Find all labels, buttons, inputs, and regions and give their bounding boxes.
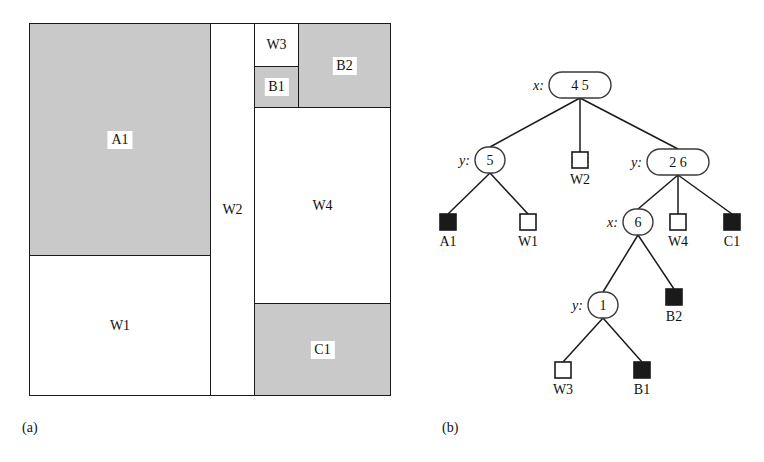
tree-leaf-node-w3[interactable]: W3	[553, 362, 573, 397]
tree-node-axis-label: y:	[457, 153, 470, 168]
tree-leaf-label: B1	[634, 382, 650, 397]
tree-leaf-label: W3	[553, 382, 573, 397]
floorplan-block-w2[interactable]: W2	[210, 23, 255, 396]
tree-internal-node-n-y5[interactable]: y:5	[457, 147, 505, 173]
tree-edge	[490, 173, 528, 214]
filled-square-icon	[724, 214, 740, 230]
tree-edge	[448, 173, 490, 214]
open-square-icon	[520, 214, 536, 230]
floorplan-block-w4[interactable]: W4	[254, 107, 391, 304]
tree-leaf-node-w1[interactable]: W1	[518, 214, 538, 249]
tree-node-value: 2 6	[669, 155, 687, 170]
floorplan-block-w3[interactable]: W3	[254, 23, 299, 67]
tree-leaf-label: W2	[570, 172, 590, 187]
tree-edge	[638, 175, 678, 209]
tree-node-axis-label: x:	[606, 215, 618, 230]
tree-edge	[678, 175, 732, 214]
tree-leaf-label: A1	[439, 234, 456, 249]
panel-b-caption: (b)	[442, 420, 458, 436]
tree-leaf-node-a1[interactable]: A1	[439, 214, 456, 249]
tree-leaf-node-w2[interactable]: W2	[570, 152, 590, 187]
open-square-icon	[670, 214, 686, 230]
floorplan-block-label: W4	[312, 199, 332, 213]
floorplan-block-b2[interactable]: B2	[298, 23, 391, 108]
tree-node-axis-label: y:	[570, 298, 583, 313]
tree-leaf-label: W1	[518, 234, 538, 249]
tree-edge	[580, 98, 678, 149]
tree-node-group: x:4 5y:5y:2 6x:6y:1A1W1W2W4C1B2W3B1	[439, 72, 740, 397]
floorplan-block-label: B1	[264, 78, 288, 96]
open-square-icon	[555, 362, 571, 378]
panel-slicing-tree: x:4 5y:5y:2 6x:6y:1A1W1W2W4C1B2W3B1 (b)	[420, 0, 764, 462]
tree-edge	[490, 98, 580, 147]
floorplan-block-w1[interactable]: W1	[29, 255, 211, 396]
tree-node-value: 4 5	[571, 78, 589, 93]
tree-leaf-label: B2	[666, 309, 682, 324]
tree-leaf-node-b1[interactable]: B1	[634, 362, 650, 397]
open-square-icon	[572, 152, 588, 168]
tree-leaf-label: C1	[724, 234, 740, 249]
tree-edge-group	[448, 98, 732, 362]
figure-root: A1W1W2W3B1B2W4C1 (a) x:4 5y:5y:2 6x:6y:1…	[0, 0, 764, 462]
floorplan-block-label: C1	[310, 341, 334, 359]
panel-floorplan: A1W1W2W3B1B2W4C1 (a)	[0, 0, 420, 462]
tree-node-value: 6	[635, 215, 642, 230]
tree-leaf-node-w4[interactable]: W4	[668, 214, 688, 249]
tree-internal-node-root[interactable]: x:4 5	[532, 72, 611, 98]
floorplan-block-label: B2	[332, 57, 356, 75]
filled-square-icon	[440, 214, 456, 230]
tree-edge	[563, 318, 603, 362]
filled-square-icon	[666, 289, 682, 305]
floorplan-block-b1[interactable]: B1	[254, 66, 299, 108]
tree-edge	[603, 235, 638, 292]
tree-leaf-node-c1[interactable]: C1	[724, 214, 740, 249]
panel-a-caption: (a)	[22, 420, 38, 436]
tree-internal-node-n-x6[interactable]: x:6	[606, 209, 653, 235]
tree-leaf-node-b2[interactable]: B2	[666, 289, 682, 324]
floorplan-block-label: W3	[266, 38, 286, 52]
filled-square-icon	[634, 362, 650, 378]
tree-leaf-label: W4	[668, 234, 688, 249]
floorplan-block-a1[interactable]: A1	[29, 23, 211, 256]
floorplan-block-label: W2	[222, 203, 242, 217]
floorplan-block-c1[interactable]: C1	[254, 303, 391, 396]
tree-internal-node-n-y1[interactable]: y:1	[570, 292, 618, 318]
tree-node-value: 1	[600, 298, 607, 313]
floorplan-block-label: W1	[110, 319, 130, 333]
tree-internal-node-n-y26[interactable]: y:2 6	[629, 149, 709, 175]
tree-node-axis-label: y:	[629, 155, 642, 170]
floorplan-block-label: A1	[107, 131, 132, 149]
tree-node-axis-label: x:	[532, 78, 544, 93]
tree-node-value: 5	[487, 153, 494, 168]
tree-edge	[603, 318, 642, 362]
slicing-tree-graphic: x:4 5y:5y:2 6x:6y:1A1W1W2W4C1B2W3B1	[420, 0, 764, 420]
